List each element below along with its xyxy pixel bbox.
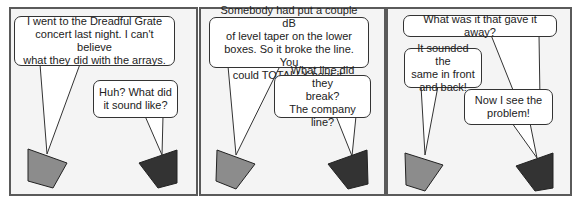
speaker-light-icon	[28, 149, 67, 188]
speaker-light-icon	[216, 150, 255, 189]
comic-strip: I went to the Dreadful Grate concert las…	[0, 0, 578, 204]
speaker-dark-icon	[516, 153, 553, 191]
speakers	[0, 0, 578, 204]
speaker-light-icon	[405, 153, 443, 191]
speaker-dark-icon	[139, 150, 177, 188]
speaker-dark-icon	[328, 150, 368, 189]
